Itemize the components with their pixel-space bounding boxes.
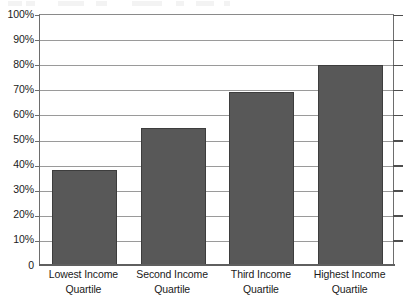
y-axis-tick-right [393,165,403,167]
x-axis-category-label-line: Quartile [39,282,128,297]
bar-chart: 010%20%30%40%50%60%70%80%90%100% Lowest … [0,0,412,308]
x-axis-category-label-line: Quartile [128,282,217,297]
scan-artifact [96,1,107,6]
y-axis-tick-right [393,65,403,67]
y-axis-tick-label: 90% [0,34,34,45]
bar-series [40,15,393,265]
y-axis-tick-label: 50% [0,134,34,145]
y-axis-tick-label: 80% [0,59,34,70]
y-axis-tick-right [393,115,403,117]
y-axis-tick-label: 40% [0,159,34,170]
y-axis-tick-label: 20% [0,209,34,220]
bar [229,92,294,265]
y-axis-tick-label: 60% [0,109,34,120]
x-axis-category-label: Third IncomeQuartile [217,267,306,296]
y-axis-tick-right [393,90,403,92]
x-axis-category-label: Lowest IncomeQuartile [39,267,128,296]
scan-artifact [132,1,162,6]
bar [318,65,383,265]
x-axis-category-label-line: Quartile [217,282,306,297]
x-axis-category-label-line: Quartile [305,282,394,297]
y-axis-tick-label: 10% [0,234,34,245]
y-axis-tick-label: 70% [0,84,34,95]
scan-artifact [224,1,230,6]
bar [52,170,117,265]
plot-area [39,14,394,265]
y-axis-tick-right [393,40,403,42]
y-axis-tick-right [393,215,403,217]
y-axis-tick-label: 100% [0,9,34,20]
x-axis-line [39,264,395,266]
y-axis-tick-label: 0 [0,260,34,271]
x-axis-category-label: Second IncomeQuartile [128,267,217,296]
y-axis-tick-label: 30% [0,184,34,195]
y-axis-tick-right [393,140,403,142]
scan-artifact [176,1,184,6]
y-axis-tick-right [393,15,403,17]
x-axis-category-label-line: Lowest Income [39,267,128,282]
x-axis-category-label-line: Highest Income [305,267,394,282]
x-axis-category-label-line: Second Income [128,267,217,282]
y-axis-tick-right [393,190,403,192]
scan-artifact [196,1,214,6]
bar [141,128,206,265]
scan-artifact [58,1,84,6]
x-axis-category-label: Highest IncomeQuartile [305,267,394,296]
x-axis-category-label-line: Third Income [217,267,306,282]
y-axis-tick-labels: 010%20%30%40%50%60%70%80%90%100% [0,0,34,308]
x-axis-category-labels: Lowest IncomeQuartileSecond IncomeQuarti… [39,267,394,308]
y-axis-tick-right [393,240,403,242]
